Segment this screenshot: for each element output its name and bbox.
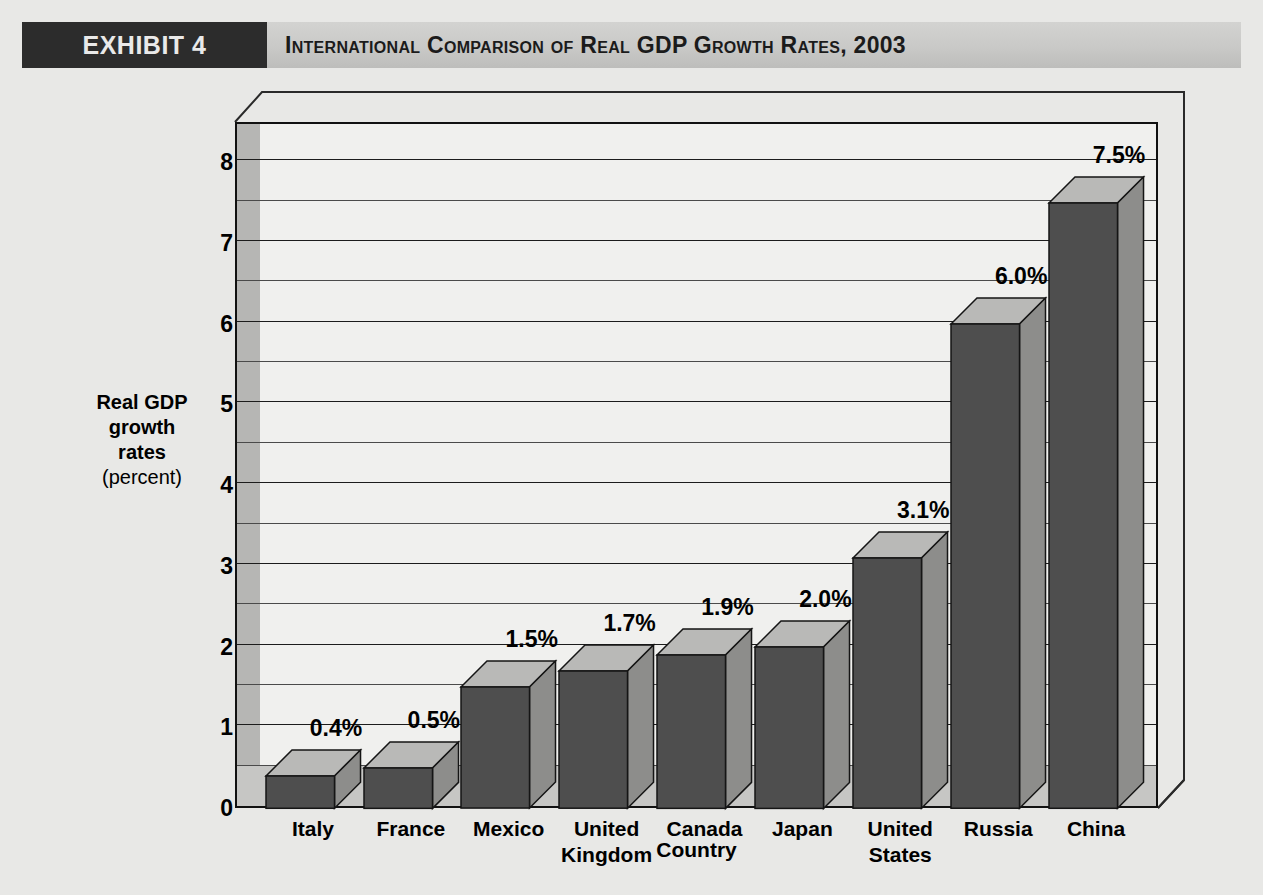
y-axis-title-line3: rates	[118, 441, 166, 463]
exhibit-number-badge: EXHIBIT 4	[22, 22, 267, 68]
bar-canada[interactable]	[657, 655, 726, 808]
bar-value-label: 3.1%	[897, 497, 949, 524]
exhibit-title: International Comparison of Real GDP Gro…	[285, 22, 906, 68]
y-axis-tick-label: 8	[193, 149, 233, 176]
bar-mexico[interactable]	[461, 687, 530, 808]
bar-italy[interactable]	[266, 776, 335, 808]
bar-japan[interactable]	[755, 647, 824, 808]
bar-3d-shape	[853, 532, 950, 810]
x-axis-title: Country	[235, 838, 1158, 862]
bar-united-kingdom[interactable]	[559, 671, 628, 808]
bar-3d-shape	[364, 742, 461, 810]
y-axis-title-line1: Real GDP	[96, 391, 187, 413]
y-axis-tick-label: 6	[193, 310, 233, 337]
bar-value-label: 2.0%	[799, 586, 851, 613]
bar-china[interactable]	[1049, 203, 1118, 808]
bar-france[interactable]	[364, 768, 433, 808]
bar-russia[interactable]	[951, 324, 1020, 808]
y-axis-title-line2: growth	[109, 416, 176, 438]
y-axis-tick-label: 5	[193, 391, 233, 418]
exhibit-number-label: EXHIBIT 4	[83, 31, 207, 60]
bar-3d-shape	[657, 629, 754, 810]
bar-3d-shape	[1049, 177, 1146, 810]
y-axis-tick-label: 1	[193, 714, 233, 741]
bar-value-label: 1.9%	[701, 594, 753, 621]
bar-value-label: 1.7%	[603, 610, 655, 637]
bars-group: 0.4%0.5%1.5%1.7%1.9%2.0%3.1%6.0%7.5%	[235, 122, 1158, 808]
y-axis-tick-label: 3	[193, 552, 233, 579]
bar-3d-shape	[266, 750, 363, 810]
y-axis-tick-label: 7	[193, 230, 233, 257]
chart-figure: Real GDP growth rates (percent) 01234567…	[0, 68, 1263, 895]
bar-3d-shape	[755, 621, 852, 810]
exhibit-page: EXHIBIT 4 International Comparison of Re…	[0, 0, 1263, 895]
bar-3d-shape	[559, 645, 656, 810]
bar-value-label: 6.0%	[995, 263, 1047, 290]
bar-united-states[interactable]	[853, 558, 922, 808]
bar-3d-shape	[951, 298, 1048, 810]
bar-value-label: 0.4%	[310, 715, 362, 742]
bar-value-label: 0.5%	[408, 707, 460, 734]
y-axis-tick-label: 0	[193, 795, 233, 822]
bar-value-label: 7.5%	[1093, 142, 1145, 169]
y-axis-tick-label: 2	[193, 633, 233, 660]
bar-value-label: 1.5%	[506, 626, 558, 653]
y-axis-tick-label: 4	[193, 472, 233, 499]
bar-3d-shape	[461, 661, 558, 810]
